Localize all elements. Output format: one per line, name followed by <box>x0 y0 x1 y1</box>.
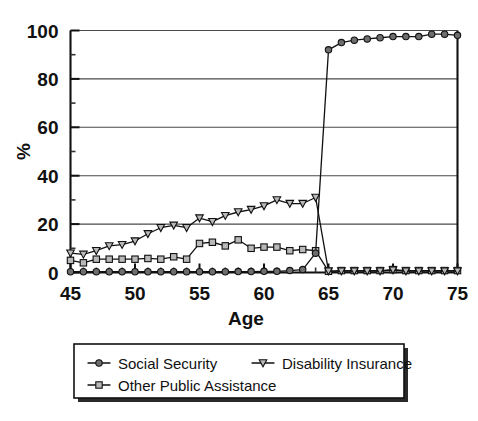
data-point-marker <box>364 36 370 42</box>
data-point-marker <box>93 269 99 275</box>
legend-marker-icon <box>96 360 102 366</box>
data-point-marker <box>248 268 254 274</box>
data-point-marker <box>312 250 318 256</box>
data-point-marker <box>93 256 99 262</box>
data-point-marker <box>222 269 228 275</box>
data-point-marker <box>183 256 189 262</box>
data-point-marker <box>67 269 73 275</box>
data-point-marker <box>119 269 125 275</box>
data-point-marker <box>351 37 357 43</box>
data-point-marker <box>403 33 409 39</box>
data-point-marker <box>132 256 138 262</box>
data-point-marker <box>157 225 165 232</box>
data-point-marker <box>106 269 112 275</box>
data-point-marker <box>144 231 152 238</box>
legend-marker-icon <box>96 382 102 388</box>
legend-item-label: Other Public Assistance <box>118 377 276 394</box>
data-point-marker <box>300 246 306 252</box>
data-point-marker <box>454 32 460 38</box>
data-point-marker <box>235 237 241 243</box>
legend-item-label: Disability Insurance <box>282 355 412 372</box>
data-point-marker <box>429 31 435 37</box>
data-point-marker <box>274 268 280 274</box>
x-tick-label: 60 <box>253 283 274 304</box>
data-point-marker <box>390 33 396 39</box>
data-point-marker <box>261 244 267 250</box>
data-point-marker <box>222 212 230 219</box>
series-disability-insurance <box>67 194 462 275</box>
chart-figure: 45505560657075 020406080100 Age% Social … <box>0 0 478 421</box>
legend-item-label: Social Security <box>118 355 218 372</box>
y-tick-label: 100 <box>27 21 59 42</box>
data-point-marker <box>312 194 320 201</box>
data-point-marker <box>119 256 125 262</box>
data-point-marker <box>171 254 177 260</box>
x-tick-label: 75 <box>447 283 469 304</box>
data-point-marker <box>261 268 267 274</box>
y-tick-label: 60 <box>37 117 58 138</box>
data-point-marker <box>183 269 189 275</box>
data-point-marker <box>171 269 177 275</box>
y-tick-label: 20 <box>37 214 58 235</box>
data-point-marker <box>248 245 254 251</box>
data-point-marker <box>106 256 112 262</box>
data-point-marker <box>80 269 86 275</box>
x-tick-label: 50 <box>124 283 145 304</box>
axis-ticks <box>71 31 458 273</box>
data-point-marker <box>158 269 164 275</box>
data-point-marker <box>338 39 344 45</box>
x-tick-label: 70 <box>382 283 403 304</box>
x-axis-title: Age <box>228 308 264 329</box>
data-point-marker <box>132 269 138 275</box>
data-point-marker <box>377 35 383 41</box>
data-point-marker <box>196 240 202 246</box>
chart-canvas: 45505560657075 020406080100 Age% Social … <box>0 0 478 421</box>
data-point-marker <box>145 269 151 275</box>
data-point-marker <box>158 256 164 262</box>
data-point-marker <box>209 269 215 275</box>
data-point-marker <box>145 255 151 261</box>
axes <box>71 31 458 273</box>
data-point-marker <box>287 267 293 273</box>
data-point-marker <box>441 31 447 37</box>
x-tick-label: 45 <box>60 283 82 304</box>
x-tick-label: 55 <box>189 283 211 304</box>
data-point-marker <box>274 244 280 250</box>
data-point-marker <box>80 260 86 266</box>
data-point-marker <box>235 268 241 274</box>
series-layer <box>67 31 462 275</box>
series-social-security <box>67 31 460 275</box>
y-tick-label: 80 <box>37 69 58 90</box>
data-point-marker <box>183 225 191 232</box>
data-point-marker <box>287 248 293 254</box>
data-point-marker <box>67 257 73 263</box>
data-point-marker <box>416 33 422 39</box>
chart-legend: Social SecurityDisability InsuranceOther… <box>74 344 412 402</box>
grid-lines <box>71 31 458 225</box>
x-tick-labels: 45505560657075 <box>60 283 469 304</box>
y-axis-title: % <box>13 143 34 160</box>
x-tick-label: 65 <box>318 283 340 304</box>
series-path <box>71 34 458 272</box>
data-point-marker <box>209 239 215 245</box>
data-point-marker <box>325 47 331 53</box>
data-point-marker <box>196 269 202 275</box>
data-point-marker <box>300 266 306 272</box>
y-tick-label: 0 <box>48 263 59 284</box>
data-point-marker <box>222 243 228 249</box>
y-tick-label: 40 <box>37 166 58 187</box>
